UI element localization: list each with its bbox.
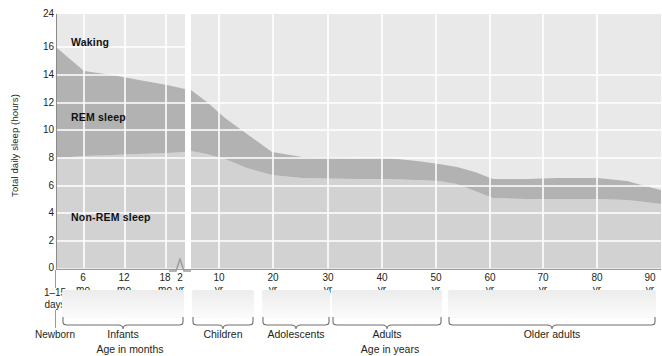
age-group-label-adults: Adults: [332, 328, 442, 340]
age-group-label-older-adults: Older adults: [448, 328, 656, 340]
x-tick-value: 40: [376, 272, 387, 283]
x-tick-value: 6: [80, 272, 86, 283]
newborn-tick: [55, 270, 56, 288]
x-tick-value: 50: [430, 272, 441, 283]
nonrem-label: Non-REM sleep: [71, 211, 151, 223]
y-tick-12: 12: [28, 98, 54, 108]
y-tick-4: 4: [28, 208, 54, 218]
sleep-lifespan-chart: Total daily sleep (hours) 24161412108642…: [0, 0, 662, 356]
y-tick-2: 2: [28, 236, 54, 246]
y-tick-24: 24: [28, 9, 54, 19]
x-tick-value: 30: [322, 272, 333, 283]
x-tick-value: 90: [644, 272, 655, 283]
rem-label: REM sleep: [71, 111, 126, 123]
newborn-stem: [55, 310, 56, 328]
y-tick-16: 16: [28, 42, 54, 52]
y-tick-8: 8: [28, 153, 54, 163]
age-group-swatch-older-adults: [448, 290, 656, 318]
x-tick-value: 20: [267, 272, 278, 283]
y-tick-6: 6: [28, 181, 54, 191]
x-tick-value: 70: [537, 272, 548, 283]
y-tick-0: 0: [28, 263, 54, 273]
x-tick-value: 80: [591, 272, 602, 283]
x-tick-value: 12: [118, 272, 129, 283]
x-tick-value: 10: [213, 272, 224, 283]
plot-area: [57, 14, 661, 269]
age-group-swatch-children: [192, 290, 254, 318]
axis-break-gutter: [185, 14, 191, 269]
age-group-label-infants: Infants: [62, 328, 184, 340]
x-tick-value: 60: [484, 272, 495, 283]
y-axis-title: Total daily sleep (hours): [9, 46, 20, 246]
age-group-swatch-adolescents: [262, 290, 330, 318]
scale-label-months: Age in months: [50, 343, 210, 355]
plot-svg: [57, 14, 661, 269]
age-group-swatch-infants: [62, 290, 184, 318]
axis-break-icon: [169, 258, 191, 272]
age-group-swatch-adults: [332, 290, 442, 318]
x-tick-value: 2: [177, 272, 183, 283]
y-tick-14: 14: [28, 70, 54, 80]
scale-label-years: Age in years: [300, 343, 480, 355]
waking-label: Waking: [71, 36, 109, 48]
y-tick-10: 10: [28, 125, 54, 135]
